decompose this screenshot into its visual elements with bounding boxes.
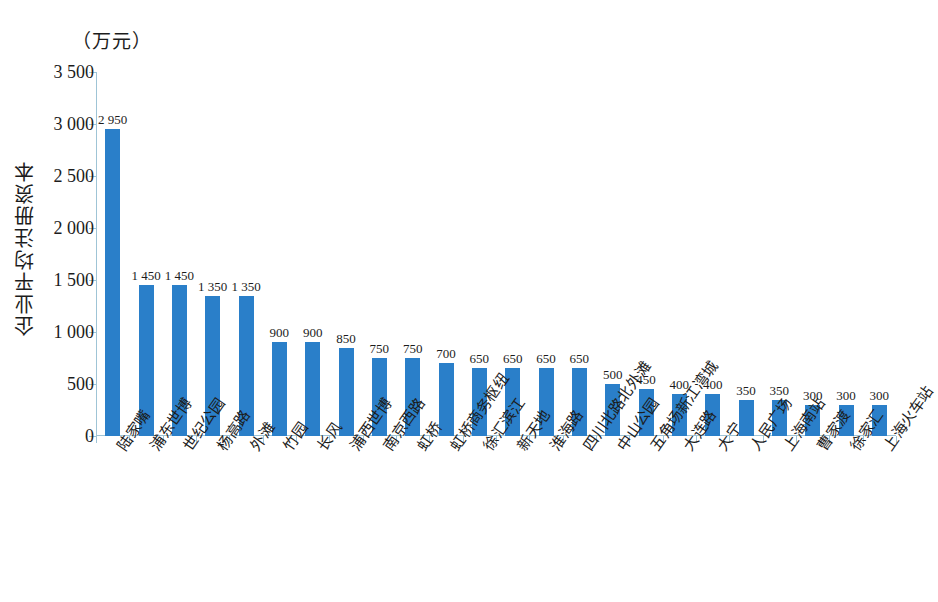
bar-value-label: 750 bbox=[403, 342, 423, 355]
y-axis-tick-label: 2 000 bbox=[24, 218, 94, 239]
bar-value-label: 650 bbox=[503, 352, 523, 365]
bar-value-label: 2 950 bbox=[98, 113, 127, 126]
bar-value-label: 1 350 bbox=[198, 280, 227, 293]
bar-value-label: 350 bbox=[736, 384, 756, 397]
bar-value-label: 900 bbox=[270, 326, 290, 339]
bar: 700 bbox=[439, 363, 454, 436]
y-axis-tick-label: 3 500 bbox=[24, 62, 94, 83]
bar-value-label: 850 bbox=[336, 332, 356, 345]
bar: 850 bbox=[339, 348, 354, 436]
y-axis-tick-label: 3 000 bbox=[24, 114, 94, 135]
y-axis-tick-label: 500 bbox=[24, 374, 94, 395]
x-axis-tick bbox=[96, 436, 97, 443]
bar-value-label: 1 450 bbox=[165, 269, 194, 282]
unit-caption: （万元） bbox=[72, 26, 152, 53]
bar-value-label: 300 bbox=[836, 389, 856, 402]
bar: 900 bbox=[305, 342, 320, 436]
bar-value-label: 1 450 bbox=[131, 269, 160, 282]
y-axis-tick-label: 1 000 bbox=[24, 322, 94, 343]
bar-value-label: 650 bbox=[536, 352, 556, 365]
bar-value-label: 650 bbox=[470, 352, 490, 365]
bar-value-label: 900 bbox=[303, 326, 323, 339]
bar-value-label: 650 bbox=[570, 352, 590, 365]
bar: 900 bbox=[272, 342, 287, 436]
y-axis-tick-label: 1 500 bbox=[24, 270, 94, 291]
y-axis-line bbox=[96, 72, 97, 436]
bar-value-label: 750 bbox=[370, 342, 390, 355]
y-axis-tick-label: 0 bbox=[24, 426, 94, 447]
bar-value-label: 1 350 bbox=[231, 280, 260, 293]
bar: 2 950 bbox=[105, 129, 120, 436]
bar-value-label: 700 bbox=[436, 347, 456, 360]
bar-value-label: 300 bbox=[870, 389, 890, 402]
y-axis-tick-label: 2 500 bbox=[24, 166, 94, 187]
